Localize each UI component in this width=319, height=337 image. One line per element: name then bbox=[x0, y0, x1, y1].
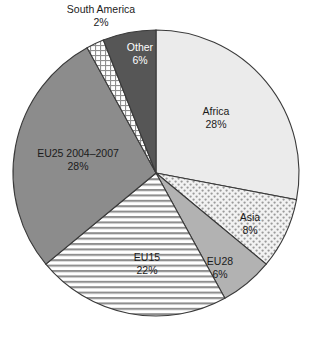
pie-chart-svg: Africa28%Asia8%EU286%EU1522%EU25 2004–20… bbox=[0, 0, 319, 337]
slice-label-value-eu25-2004-2007: 28% bbox=[67, 160, 88, 172]
slice-label-value-south-america: 2% bbox=[93, 16, 108, 28]
slice-label-name-africa: Africa bbox=[203, 105, 230, 117]
slice-label-name-eu15: EU15 bbox=[134, 251, 160, 263]
slice-label-value-africa: 28% bbox=[205, 118, 226, 130]
pie-chart: Africa28%Asia8%EU286%EU1522%EU25 2004–20… bbox=[0, 0, 319, 337]
slice-label-value-eu28: 6% bbox=[212, 268, 227, 280]
slice-label-value-asia: 8% bbox=[242, 224, 257, 236]
slice-label-name-asia: Asia bbox=[240, 211, 261, 223]
slice-label-value-other: 6% bbox=[132, 54, 147, 66]
slice-label-name-other: Other bbox=[127, 41, 154, 53]
slice-label-name-eu25-2004-2007: EU25 2004–2007 bbox=[37, 147, 119, 159]
clipped-caption-artifact bbox=[0, 329, 319, 337]
slice-label-value-eu15: 22% bbox=[136, 264, 157, 276]
slice-label-name-eu28: EU28 bbox=[207, 255, 233, 267]
slice-label-name-south-america: South America bbox=[67, 3, 135, 15]
chart-page: Africa28%Asia8%EU286%EU1522%EU25 2004–20… bbox=[0, 0, 319, 337]
